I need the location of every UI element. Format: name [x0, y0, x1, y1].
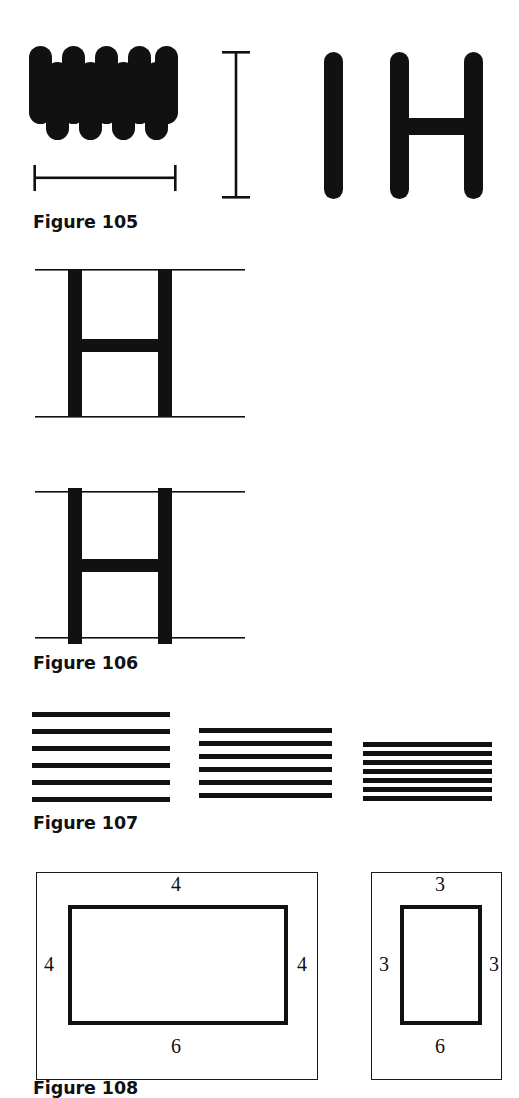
line-group-tight [363, 742, 492, 801]
panel-narrow-label-bottom: 6 [435, 1036, 445, 1056]
panel-narrow-label-right: 3 [489, 954, 499, 974]
line-group-wide [32, 712, 170, 802]
figure-106-caption: Figure 106 [33, 653, 138, 673]
figure-105-caption: Figure 105 [33, 212, 138, 232]
panel-narrow-label-top: 3 [435, 874, 445, 894]
panel-narrow-rectangle-shape [400, 905, 482, 1025]
figure-107-artwork [0, 705, 519, 805]
vertical-i-beam-gauge [222, 51, 250, 199]
figure-107-caption: Figure 107 [33, 813, 138, 833]
panel-wide-label-top: 4 [171, 874, 181, 894]
letter-h-between-guides-overshoot [35, 488, 245, 644]
panel-wide-label-bottom: 6 [171, 1036, 181, 1056]
figure-105-artwork [0, 0, 519, 205]
horizontal-i-beam-gauge [33, 165, 176, 191]
panel-wide-label-left: 4 [44, 954, 54, 974]
figure-108-caption: Figure 108 [33, 1078, 138, 1098]
line-group-medium [199, 728, 332, 798]
panel-narrow-label-left: 3 [379, 954, 389, 974]
letter-h-between-guides-aligned [35, 269, 245, 418]
zigzag-scribble-block [29, 46, 178, 140]
panel-wide-rectangle-shape [68, 905, 288, 1025]
thick-vertical-stroke [324, 52, 343, 199]
figure-106-artwork [0, 255, 519, 650]
panel-wide-label-right: 4 [297, 954, 307, 974]
letter-h-glyph [390, 52, 483, 199]
